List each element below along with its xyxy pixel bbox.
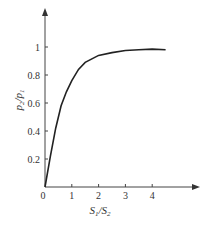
chart-svg: 012340.20.40.60.81 p2/p1 S1/S2: [0, 0, 204, 228]
x-tick-label: 0: [41, 190, 46, 201]
y-tick-label: 1: [35, 42, 40, 53]
x-tick-label: 2: [96, 190, 101, 201]
x-axis-label: S1/S2: [89, 204, 111, 218]
data-curve: [45, 49, 166, 187]
y-axis-label: p2/p1: [12, 89, 26, 111]
y-tick-label: 0.4: [28, 126, 41, 137]
x-tick-label: 4: [150, 190, 155, 201]
y-tick-label: 0.6: [28, 98, 41, 109]
x-tick-label: 3: [123, 190, 128, 201]
y-tick-label: 0.8: [28, 70, 41, 81]
x-tick-label: 1: [69, 190, 74, 201]
y-tick-label: 0.2: [28, 154, 41, 165]
